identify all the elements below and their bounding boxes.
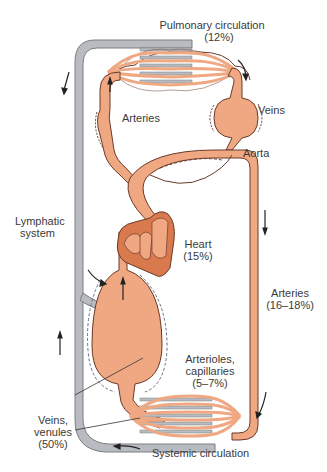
- arteries-right-label-line2: (16–18%): [262, 299, 318, 311]
- arterioles-label-line3: (5–7%): [175, 377, 245, 389]
- lymphatic-label-line1: Lymphatic: [15, 215, 60, 227]
- label-heart: Heart (15%): [180, 238, 216, 262]
- label-veins-venules: Veins, venules (50%): [28, 414, 78, 450]
- label-arterioles-capillaries: Arterioles, capillaries (5–7%): [175, 353, 245, 389]
- label-lymphatic-system: Lymphatic system: [15, 215, 60, 239]
- veins-venules-label-line1: Veins,: [28, 414, 78, 426]
- label-systemic-circulation: Systemic circulation: [152, 447, 249, 459]
- veins-venules-label-line3: (50%): [28, 438, 78, 450]
- label-arteries-right: Arteries (16–18%): [262, 287, 318, 311]
- veins-venules-label-line2: venules: [28, 426, 78, 438]
- arterioles-label-line1: Arterioles,: [175, 353, 245, 365]
- heart-label-line1: Heart: [180, 238, 216, 250]
- pulmonary-label-line2: (12%): [147, 31, 277, 43]
- systemic-capillaries: [130, 396, 240, 436]
- pulmonary-capillaries: [108, 48, 250, 91]
- arterioles-label-line2: capillaries: [175, 365, 245, 377]
- label-aorta: Aorta: [243, 147, 269, 159]
- pulmonary-label-line1: Pulmonary circulation: [147, 19, 277, 31]
- label-arteries-top: Arteries: [122, 112, 160, 124]
- arteries-right-label-line1: Arteries: [262, 287, 318, 299]
- lymphatic-label-line2: system: [15, 227, 60, 239]
- heart-label-line2: (15%): [180, 250, 216, 262]
- label-veins-top: Veins: [258, 104, 285, 116]
- label-pulmonary-circulation: Pulmonary circulation (12%): [147, 19, 277, 43]
